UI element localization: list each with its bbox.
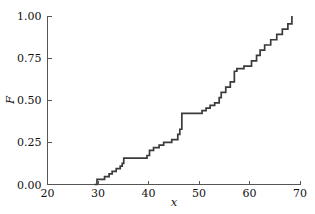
x-axis-title: x xyxy=(171,195,178,209)
x-tick-label: 70 xyxy=(293,187,307,200)
x-tick-label: 60 xyxy=(243,187,257,200)
ecdf-figure: 203040506070 0.000.250.500.751.00 x F xyxy=(0,0,315,214)
y-tick-label: 0.25 xyxy=(17,136,42,149)
plot-canvas: 203040506070 0.000.250.500.751.00 x F xyxy=(0,0,315,214)
y-tick-label: 0.50 xyxy=(17,94,42,107)
y-axis-title: F xyxy=(3,95,17,105)
x-tick-label: 20 xyxy=(41,187,55,200)
y-tick-label: 1.00 xyxy=(17,10,42,23)
x-tick-label: 50 xyxy=(192,187,206,200)
x-tick-label: 40 xyxy=(142,187,156,200)
y-tick-label: 0.00 xyxy=(17,179,42,192)
x-tick-label: 30 xyxy=(91,187,105,200)
y-tick-label: 0.75 xyxy=(17,52,42,65)
